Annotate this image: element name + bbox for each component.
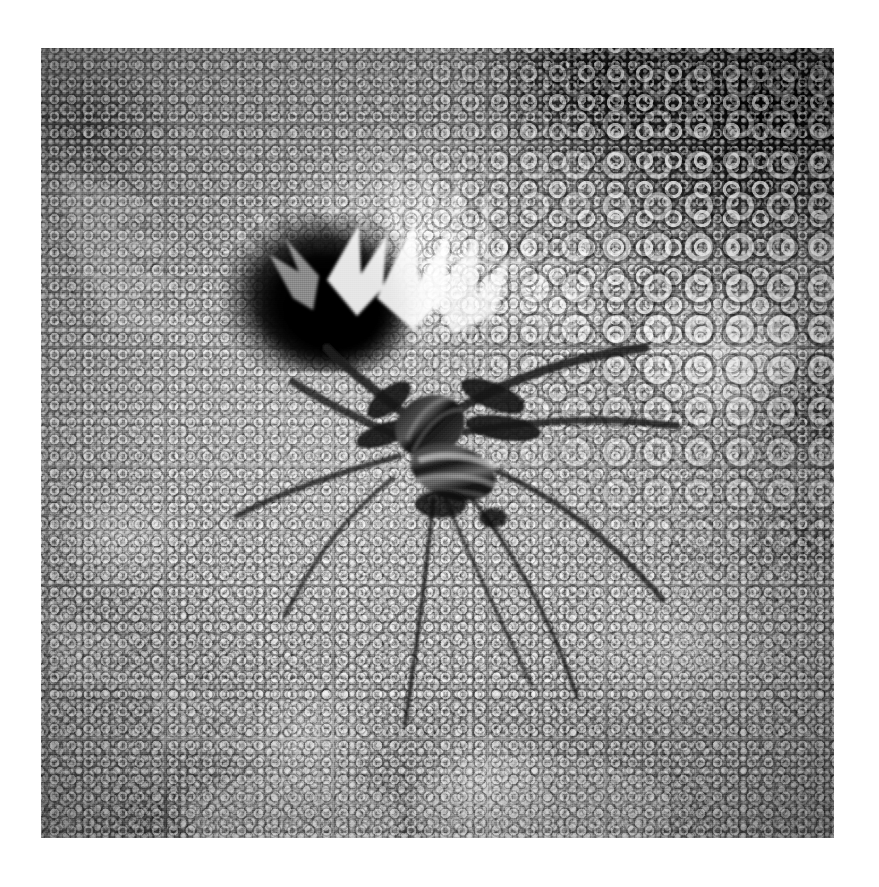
photograph xyxy=(41,48,834,838)
desaturation xyxy=(41,48,834,838)
photo-page: Funnel-web spider on dew-covered sheet w… xyxy=(0,0,879,887)
